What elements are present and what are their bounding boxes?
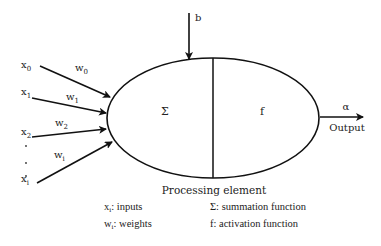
weight-label-wi: wi xyxy=(54,149,66,163)
weight-label-w2: w2 xyxy=(55,117,68,131)
ellipsis-dot-1 xyxy=(25,145,27,147)
legend-inputs: xi: inputs xyxy=(104,201,142,214)
activation-symbol: f xyxy=(260,105,265,118)
input-label-xi: xi xyxy=(21,173,30,187)
input-label-x2: x2 xyxy=(21,126,31,140)
weight-label-w0: w0 xyxy=(75,62,88,76)
output-symbol: α xyxy=(343,101,350,112)
input-arrow-2 xyxy=(32,129,106,137)
weight-label-w1: w1 xyxy=(66,91,79,105)
input-arrow-i xyxy=(37,142,112,183)
diagram-caption: Processing element xyxy=(162,184,267,196)
summation-symbol: Σ xyxy=(161,105,169,118)
input-label-x1: x1 xyxy=(21,86,31,100)
legend-activation: f: activation function xyxy=(210,218,298,229)
output-label: Output xyxy=(329,122,365,133)
neuron-diagram: Σ f b α Output x0 x1 x2 xi w0 w1 w2 wi P… xyxy=(0,0,381,246)
bias-label: b xyxy=(195,12,201,23)
legend-summation: Σ: summation function xyxy=(210,201,306,212)
legend-weights: wi: weights xyxy=(104,218,152,231)
ellipsis-dot-2 xyxy=(25,162,27,164)
input-label-x0: x0 xyxy=(21,59,31,73)
ellipsis-dot-3 xyxy=(25,175,27,177)
